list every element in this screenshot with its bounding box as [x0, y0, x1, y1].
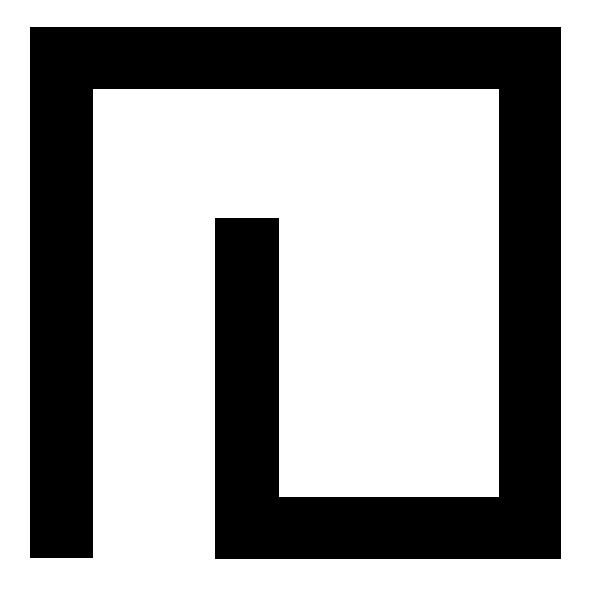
- spiral-mark-canvas: [0, 0, 589, 590]
- top-bar: [30, 27, 561, 89]
- right-bar: [499, 27, 561, 559]
- inner-vertical-bar: [215, 218, 279, 559]
- left-outer-bar: [30, 27, 93, 558]
